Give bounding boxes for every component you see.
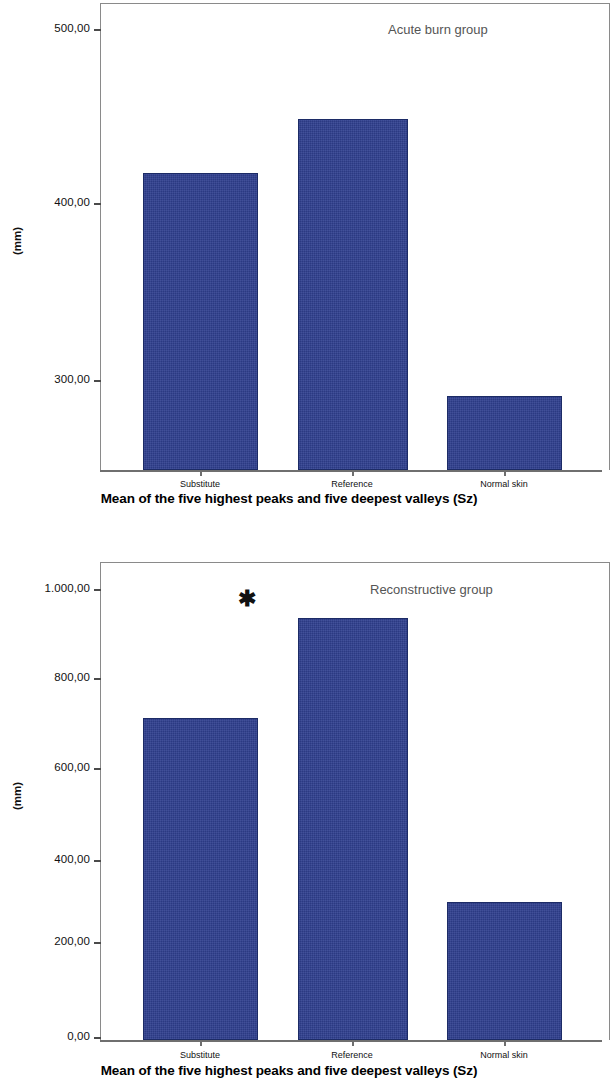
group-annotation-reconstructive: Reconstructive group bbox=[370, 582, 493, 597]
category-label-reference: Reference bbox=[302, 479, 402, 489]
category-label-substitute: Substitute bbox=[150, 1050, 250, 1060]
ytick-mark bbox=[94, 768, 101, 770]
y-axis-title: (mm) bbox=[11, 211, 23, 271]
ytick-mark bbox=[94, 942, 101, 944]
group-annotation-acute-burn: Acute burn group bbox=[388, 22, 488, 37]
ytick-label: 400,00 bbox=[4, 853, 90, 865]
category-label-substitute: Substitute bbox=[150, 479, 250, 489]
category-tick bbox=[352, 1041, 354, 1046]
category-tick bbox=[352, 471, 354, 476]
ytick-mark bbox=[94, 203, 101, 205]
ytick-mark bbox=[94, 860, 101, 862]
category-tick bbox=[200, 471, 202, 476]
ytick-mark bbox=[94, 589, 101, 591]
category-label-normal-skin: Normal skin bbox=[454, 479, 554, 489]
x-axis-title: Mean of the five highest peaks and five … bbox=[0, 1063, 578, 1078]
category-tick bbox=[504, 471, 506, 476]
ytick-mark bbox=[94, 29, 101, 31]
ytick-label: 200,00 bbox=[4, 935, 90, 947]
ytick-label: 1.000,00 bbox=[4, 582, 90, 594]
category-tick bbox=[200, 1041, 202, 1046]
ytick-mark bbox=[94, 380, 101, 382]
ytick-label: 400,00 bbox=[14, 196, 90, 208]
ytick-label: 800,00 bbox=[4, 671, 90, 683]
category-tick bbox=[504, 1041, 506, 1046]
chart-panel-acute-burn: 500,00 400,00 300,00 (mm) Substitute Ref… bbox=[0, 0, 602, 520]
bar-reference bbox=[298, 119, 408, 470]
category-axis-line bbox=[100, 1040, 602, 1042]
category-label-normal-skin: Normal skin bbox=[454, 1050, 554, 1060]
bar-normal-skin bbox=[447, 902, 562, 1040]
ytick-label: 300,00 bbox=[14, 373, 90, 385]
category-axis-line bbox=[100, 470, 602, 472]
bar-reference bbox=[298, 618, 408, 1040]
ytick-mark bbox=[94, 678, 101, 680]
y-axis-title: (mm) bbox=[11, 766, 23, 826]
bar-substitute bbox=[143, 718, 258, 1040]
ytick-label: 0,00 bbox=[4, 1030, 90, 1042]
ytick-label: 500,00 bbox=[14, 22, 90, 34]
bar-substitute bbox=[143, 173, 258, 470]
bar-normal-skin bbox=[447, 396, 562, 470]
ytick-mark bbox=[94, 1037, 101, 1039]
significance-asterisk: ✱ bbox=[238, 588, 256, 610]
category-label-reference: Reference bbox=[302, 1050, 402, 1060]
x-axis-title: Mean of the five highest peaks and five … bbox=[0, 491, 578, 506]
chart-panel-reconstructive: 1.000,00 800,00 600,00 400,00 200,00 0,0… bbox=[0, 540, 602, 1086]
